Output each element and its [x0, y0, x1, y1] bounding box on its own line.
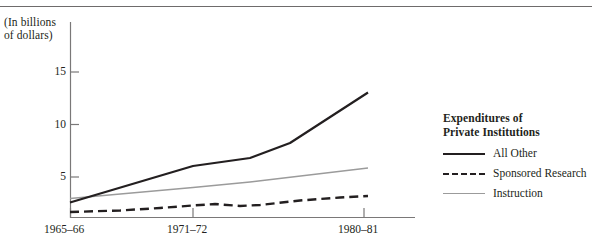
chart-legend: Expenditures of Private Institutions All…	[443, 111, 587, 203]
legend-swatch-gray-line-icon	[443, 188, 485, 198]
legend-item-all-other: All Other	[443, 143, 587, 163]
y-tick-label-10: 10	[40, 118, 66, 130]
x-tick-label-1980-81: 1980–81	[338, 223, 378, 235]
legend-label-instruction: Instruction	[493, 186, 543, 200]
series-line-all-other	[70, 93, 368, 203]
x-tick-label-1971-72: 1971–72	[167, 223, 207, 235]
legend-swatch-solid-line-icon	[443, 148, 485, 158]
legend-label-all-other: All Other	[493, 146, 537, 160]
legend-label-sponsored-research: Sponsored Research	[493, 166, 587, 180]
series-line-instruction	[70, 168, 368, 199]
legend-swatch-dashed-line-icon	[443, 168, 485, 178]
x-tick-label-1965-66: 1965–66	[44, 223, 84, 235]
chart-figure: (In billions of dollars) 15 10 5 1965–66…	[0, 0, 592, 247]
legend-item-instruction: Instruction	[443, 183, 587, 203]
legend-item-sponsored-research: Sponsored Research	[443, 163, 587, 183]
y-tick-label-5: 5	[40, 170, 66, 182]
series-line-sponsored-research	[70, 196, 368, 212]
y-tick-label-15: 15	[40, 65, 66, 77]
legend-title: Expenditures of Private Institutions	[443, 111, 587, 139]
